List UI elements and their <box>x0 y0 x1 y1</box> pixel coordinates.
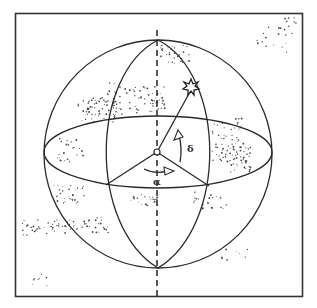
star-icon <box>183 79 199 95</box>
line-to-vernal-equinox <box>106 152 157 185</box>
right-ascension-label: α <box>153 176 161 187</box>
declination-label: δ <box>187 143 194 154</box>
line-to-star <box>157 90 191 152</box>
observer-center <box>154 149 160 155</box>
right-ascension-arrowhead-icon <box>164 167 174 175</box>
declination-arrowhead-icon <box>174 130 183 140</box>
celestial-sphere-diagram: δ α <box>0 0 317 308</box>
declination-arrow-shaft <box>179 135 181 162</box>
